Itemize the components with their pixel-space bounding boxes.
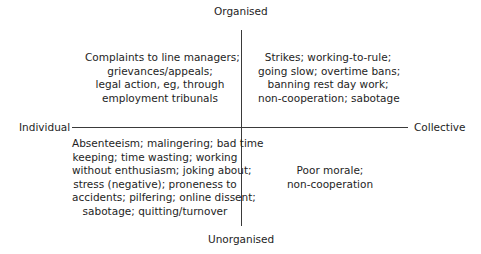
quadrant-collective-organised: Strikes; working-to-rule; going slow; ov… — [258, 51, 398, 105]
axis-label-organised: Organised — [214, 5, 268, 17]
quadrant-collective-unorganised: Poor morale; non-cooperation — [280, 164, 380, 191]
quadrant-text-line: Absenteeism; malingering; bad time — [72, 137, 238, 151]
quadrant-individual-unorganised: Absenteeism; malingering; bad time keepi… — [72, 137, 238, 218]
quadrant-text-line: without enthusiasm; joking about; — [72, 164, 238, 178]
quadrant-text-line: non-cooperation; sabotage — [258, 92, 398, 106]
axis-label-collective: Collective — [414, 121, 466, 133]
quadrant-text-line: non-cooperation — [280, 178, 380, 192]
quadrant-text-line: Strikes; working-to-rule; — [258, 51, 398, 65]
quadrant-text-line: banning rest day work; — [258, 78, 398, 92]
quadrant-text-line: going slow; overtime bans; — [258, 65, 398, 79]
quadrant-individual-organised: Complaints to line managers; grievances/… — [85, 51, 235, 105]
quadrant-text-line: stress (negative); proneness to — [72, 178, 238, 192]
axis-label-unorganised: Unorganised — [208, 233, 274, 245]
quadrant-text-line: employment tribunals — [85, 92, 235, 106]
quadrant-text-line: Complaints to line managers; — [85, 51, 235, 65]
quadrant-text-line: legal action, eg, through — [85, 78, 235, 92]
quadrant-text-line: sabotage; quitting/turnover — [72, 205, 238, 219]
axis-label-individual: Individual — [19, 121, 70, 133]
quadrant-text-line: accidents; pilfering; online dissent; — [72, 191, 238, 205]
quadrant-text-line: grievances/appeals; — [85, 65, 235, 79]
quadrant-text-line: keeping; time wasting; working — [72, 151, 238, 165]
quadrant-text-line: Poor morale; — [280, 164, 380, 178]
horizontal-axis-line — [72, 127, 408, 128]
